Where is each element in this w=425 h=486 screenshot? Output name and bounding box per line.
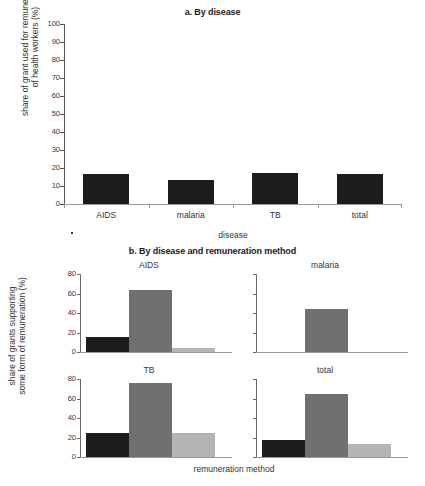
panel-b-y-axis-label: share of grants supporting some form of … xyxy=(5,256,29,416)
panel-b-x-axis-label: remuneration method xyxy=(64,464,404,474)
panel-b-title: b. By disease and remuneration method xyxy=(0,246,425,256)
chart-panel-b: b. By disease and remuneration method sh… xyxy=(0,236,425,486)
x-category-label: TB xyxy=(233,210,318,220)
subplot-plot-area: 020406080 xyxy=(80,274,232,352)
bar xyxy=(129,383,172,457)
y-tick xyxy=(77,352,81,353)
panel-b-subplot-grid: AIDS020406080malariaTB020406080total xyxy=(64,260,404,458)
y-axis-line xyxy=(256,379,257,457)
subplot-aids: AIDS020406080 xyxy=(64,260,234,359)
y-tick-label: 100 xyxy=(36,19,60,28)
chart-panel-a: a. By disease share of grant used for re… xyxy=(0,0,425,232)
y-tick xyxy=(253,438,257,439)
x-axis-line xyxy=(80,352,232,353)
bar xyxy=(262,440,305,457)
y-tick xyxy=(253,333,257,334)
stray-mark xyxy=(71,232,73,234)
bar xyxy=(168,180,214,204)
y-tick-label: 60 xyxy=(36,91,60,100)
y-tick xyxy=(253,418,257,419)
y-tick-label: 20 xyxy=(60,328,76,337)
y-tick-label: 40 xyxy=(60,308,76,317)
x-tick xyxy=(401,204,402,208)
y-tick-label: 50 xyxy=(36,109,60,118)
bar xyxy=(83,174,129,204)
subplot-title: AIDS xyxy=(64,260,234,270)
x-category-label: malaria xyxy=(149,210,234,220)
bar xyxy=(86,433,129,457)
panel-a-bars xyxy=(64,24,402,204)
y-tick-label: 70 xyxy=(36,73,60,82)
y-tick xyxy=(77,438,81,439)
panel-b-y-axis-label-line2: some form of remuneration (%) xyxy=(17,277,28,395)
y-tick xyxy=(77,457,81,458)
subplot-title: malaria xyxy=(240,260,410,270)
y-tick xyxy=(253,399,257,400)
x-tick xyxy=(318,204,319,208)
y-tick-label: 0 xyxy=(60,452,76,461)
y-tick-label: 20 xyxy=(60,433,76,442)
subplot-tb: TB020406080 xyxy=(64,365,234,464)
panel-a-plot-area: 0102030405060708090100 AIDSmalariaTBtota… xyxy=(64,24,402,204)
x-category-label: AIDS xyxy=(64,210,149,220)
y-axis-line xyxy=(80,274,81,352)
subplot-plot-area: 020406080 xyxy=(80,379,232,457)
subplot-title: total xyxy=(240,365,410,375)
y-tick-label: 60 xyxy=(60,394,76,403)
y-tick xyxy=(77,294,81,295)
y-tick-label: 60 xyxy=(60,289,76,298)
y-tick-label: 40 xyxy=(36,127,60,136)
subplot-plot-area xyxy=(256,379,408,457)
y-axis-line xyxy=(256,274,257,352)
panel-a-y-axis-label-line1: share of grant used for remuneration xyxy=(20,0,30,116)
bar xyxy=(252,173,298,205)
y-tick-label: 20 xyxy=(36,163,60,172)
bar xyxy=(86,337,129,352)
y-tick xyxy=(77,379,81,380)
x-axis-line xyxy=(256,457,408,458)
bar xyxy=(172,433,215,457)
subplot-bars xyxy=(262,379,408,457)
y-axis-line xyxy=(80,379,81,457)
x-axis-line xyxy=(256,352,408,353)
figure-root: a. By disease share of grant used for re… xyxy=(0,0,425,486)
y-tick xyxy=(77,418,81,419)
subplot-title: TB xyxy=(64,365,234,375)
subplot-malaria: malaria xyxy=(240,260,410,359)
y-tick-label: 30 xyxy=(36,145,60,154)
y-tick xyxy=(253,379,257,380)
y-tick-label: 0 xyxy=(36,199,60,208)
y-tick xyxy=(77,399,81,400)
subplot-total: total xyxy=(240,365,410,464)
y-tick-label: 80 xyxy=(60,374,76,383)
panel-a-title: a. By disease xyxy=(0,7,425,17)
y-tick-label: 90 xyxy=(36,37,60,46)
y-tick-label: 80 xyxy=(60,269,76,278)
y-tick xyxy=(77,333,81,334)
subplot-bars xyxy=(86,379,232,457)
bar xyxy=(129,290,172,352)
x-tick xyxy=(149,204,150,208)
y-tick xyxy=(253,294,257,295)
y-tick xyxy=(253,352,257,353)
y-tick-label: 10 xyxy=(36,181,60,190)
subplot-bars xyxy=(262,274,408,352)
bar xyxy=(337,174,383,204)
y-tick xyxy=(253,274,257,275)
subplot-bars xyxy=(86,274,232,352)
y-tick-label: 80 xyxy=(36,55,60,64)
y-tick-label: 40 xyxy=(60,413,76,422)
x-axis-line xyxy=(80,457,232,458)
y-tick xyxy=(253,457,257,458)
x-tick xyxy=(233,204,234,208)
bar xyxy=(305,394,348,457)
y-tick-label: 0 xyxy=(60,347,76,356)
bar xyxy=(172,348,215,352)
subplot-plot-area xyxy=(256,274,408,352)
y-tick xyxy=(77,313,81,314)
y-tick xyxy=(77,274,81,275)
bar xyxy=(305,309,348,352)
x-tick xyxy=(64,204,65,208)
panel-b-y-axis-label-line1: share of grants supporting xyxy=(7,287,18,386)
y-tick xyxy=(253,313,257,314)
